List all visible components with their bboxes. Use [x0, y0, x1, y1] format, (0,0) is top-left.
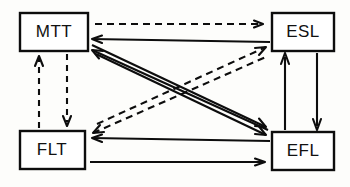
node-esl[interactable]: ESL	[272, 13, 334, 51]
node-efl-label: EFL	[287, 141, 320, 160]
edge-esl-to-mtt-solid	[92, 36, 270, 44]
edge-efl-to-esl-solid-up	[281, 53, 289, 130]
node-esl-label: ESL	[286, 22, 320, 41]
node-flt[interactable]: FLT	[20, 131, 85, 169]
diagram-canvas: MTT ESL FLT EFL	[0, 0, 350, 187]
edge-mtt-to-flt-dashed-down	[63, 54, 71, 126]
node-flt-label: FLT	[37, 140, 67, 159]
edge-efl-to-mtt-solid	[92, 50, 268, 130]
edge-mtt-to-esl-dashed	[95, 21, 263, 28]
node-mtt[interactable]: MTT	[20, 13, 88, 51]
node-efl[interactable]: EFL	[272, 132, 334, 170]
edge-flt-to-efl-solid	[90, 159, 265, 166]
edge-efl-to-flt-solid	[92, 135, 270, 143]
edge-flt-to-mtt-dashed-up	[35, 56, 43, 128]
node-mtt-label: MTT	[36, 22, 72, 41]
diagram-svg: MTT ESL FLT EFL	[0, 0, 350, 187]
edge-esl-to-efl-solid-down	[313, 53, 321, 130]
